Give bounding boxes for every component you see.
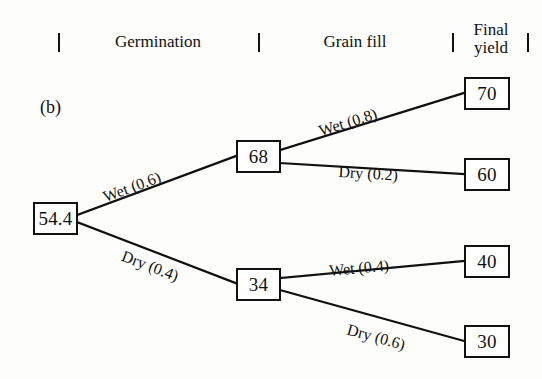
node-dry-dry: 30 [464, 325, 510, 358]
node-dry-wet: 40 [464, 245, 510, 278]
node-wet-dry: 60 [464, 158, 510, 191]
decision-tree-figure: Germination Grain fill Final yield (b) W… [0, 0, 542, 379]
node-root: 54.4 [33, 202, 78, 235]
node-root-value: 54.4 [38, 208, 72, 230]
node-wet-dry-value: 60 [477, 164, 496, 186]
node-dry-dry-value: 30 [477, 331, 496, 353]
node-dry-value: 34 [249, 274, 268, 296]
node-dry-wet-value: 40 [477, 251, 496, 273]
node-wet-wet: 70 [464, 77, 510, 110]
node-dry: 34 [236, 268, 281, 301]
edge-label-wet-dry: Dry (0.2) [338, 163, 399, 184]
node-wet-wet-value: 70 [477, 83, 496, 105]
node-wet: 68 [236, 140, 281, 173]
tree-edges [0, 0, 542, 379]
node-wet-value: 68 [249, 146, 268, 168]
